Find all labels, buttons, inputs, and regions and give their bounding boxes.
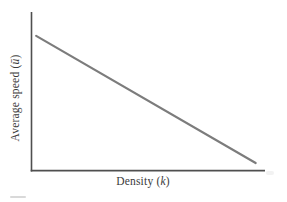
x-axis-label-prefix: Density (	[116, 175, 160, 187]
speed-density-figure: Average speed (ū) Density (k)	[0, 0, 287, 202]
x-axis-label-suffix: )	[166, 175, 170, 187]
scan-artifact-smudge	[10, 196, 26, 198]
y-axis-label-suffix: )	[9, 55, 21, 59]
chart-canvas	[0, 0, 287, 202]
y-axis-label: Average speed (ū)	[8, 12, 22, 184]
y-axis-label-prefix: Average speed (	[9, 65, 21, 142]
speed-density-data-line	[36, 36, 255, 163]
scan-artifact-speckle	[266, 171, 274, 175]
x-axis-label: Density (k)	[26, 174, 260, 188]
y-axis-symbol-ubar: ū	[9, 59, 21, 65]
